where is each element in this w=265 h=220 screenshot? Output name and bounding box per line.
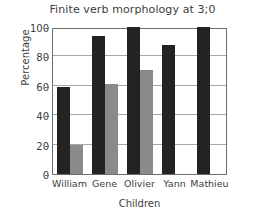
bar-grey-gene bbox=[105, 84, 118, 174]
y-axis-tick-mark bbox=[45, 57, 49, 58]
y-axis-tick-mark bbox=[45, 28, 49, 29]
y-axis-tick-label: 0 bbox=[3, 170, 49, 181]
x-axis-tick-label-gene: Gene bbox=[92, 178, 117, 189]
x-axis-tick-labels: WilliamGeneOlivierYannMathieu bbox=[52, 178, 227, 194]
y-axis-tick-labels: 020406080100 bbox=[0, 28, 49, 175]
y-axis-tick-label: 80 bbox=[3, 52, 49, 63]
x-axis-title: Children bbox=[52, 198, 227, 209]
bar-dark-william bbox=[57, 87, 70, 174]
x-axis-tick-label-william: William bbox=[52, 178, 87, 189]
bar-dark-olivier bbox=[127, 27, 140, 174]
y-axis-tick-mark bbox=[45, 87, 49, 88]
chart-figure: Finite verb morphology at 3;0 Percentage… bbox=[0, 0, 265, 220]
x-axis-tick-label-olivier: Olivier bbox=[124, 178, 155, 189]
y-axis-tick-label: 40 bbox=[3, 111, 49, 122]
x-axis-tick-label-mathieu: Mathieu bbox=[190, 178, 228, 189]
y-axis-tick-label: 20 bbox=[3, 140, 49, 151]
y-axis-tick-mark bbox=[45, 116, 49, 117]
bar-grey-olivier bbox=[140, 70, 153, 174]
y-axis-tick-mark bbox=[45, 175, 49, 176]
bar-dark-yann bbox=[162, 45, 175, 174]
bar-dark-mathieu bbox=[197, 27, 210, 174]
y-axis-tick-label: 100 bbox=[3, 23, 49, 34]
chart-title: Finite verb morphology at 3;0 bbox=[0, 3, 265, 16]
x-axis-tick-label-yann: Yann bbox=[163, 178, 185, 189]
y-axis-tick-mark bbox=[45, 146, 49, 147]
y-axis-tick-label: 60 bbox=[3, 81, 49, 92]
bar-dark-gene bbox=[92, 36, 105, 174]
bar-grey-william bbox=[70, 145, 83, 174]
plot-area bbox=[52, 28, 227, 175]
